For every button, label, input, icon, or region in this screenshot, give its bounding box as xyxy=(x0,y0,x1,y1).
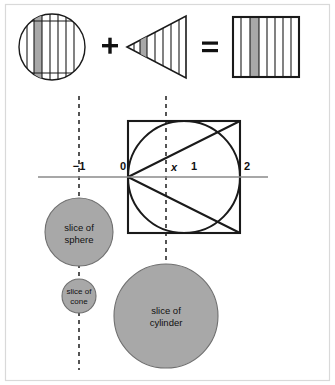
cone-ray-lower xyxy=(128,177,240,233)
sphere-shaded-band xyxy=(34,12,42,82)
axis-tick-label-x: x xyxy=(170,161,178,173)
cylinder-outline xyxy=(233,17,299,77)
equation-row xyxy=(19,12,299,82)
axis-tick-label-one: 1 xyxy=(191,160,197,172)
slice-of-cone-label-line1: slice of xyxy=(67,287,93,296)
slice-of-sphere-label-line2: sphere xyxy=(64,234,93,245)
equals-operator xyxy=(202,42,218,53)
cylinder-shaded-band xyxy=(250,17,259,77)
slice-discs: slice of sphere slice of cone slice of c… xyxy=(45,198,218,368)
slice-of-sphere-label-line1: slice of xyxy=(64,222,94,233)
slice-of-cone: slice of cone xyxy=(62,279,96,313)
equation-term-cone xyxy=(127,14,186,80)
cone-ray-upper xyxy=(128,121,240,177)
slice-of-cone-label-line2: cone xyxy=(70,297,88,306)
slice-of-cylinder: slice of cylinder xyxy=(114,264,218,368)
sphere-outline xyxy=(19,14,85,80)
plus-operator xyxy=(102,38,118,54)
slice-of-cylinder-label-line1: slice of xyxy=(151,305,181,316)
axis-tick-label-zero: 0 xyxy=(120,160,126,172)
axis-tick-label-two: 2 xyxy=(244,160,250,172)
cone-outline xyxy=(127,16,186,78)
equation-term-cylinder xyxy=(233,17,299,77)
cone-shaded-band xyxy=(140,14,147,80)
slice-of-cylinder-label-line2: cylinder xyxy=(150,317,183,328)
slice-of-sphere: slice of sphere xyxy=(45,198,113,266)
axis-tick-label-minus1: −1 xyxy=(73,160,86,172)
cavalieri-principle-figure: −1 0 x 1 2 slice of sphere slice of cone xyxy=(0,0,335,385)
cylinder-stripes xyxy=(241,17,291,77)
equation-term-sphere xyxy=(19,12,85,82)
